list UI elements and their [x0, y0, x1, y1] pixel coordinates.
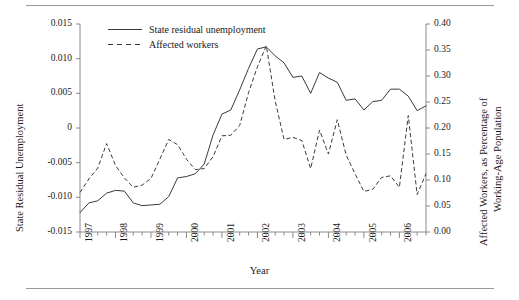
series-layer	[80, 46, 426, 213]
data-series-affected-workers	[80, 46, 426, 195]
axes-layer	[76, 24, 430, 238]
chart-plot-area	[0, 0, 519, 300]
figure-panel: State Residual Unemployment Affected Wor…	[0, 0, 519, 300]
